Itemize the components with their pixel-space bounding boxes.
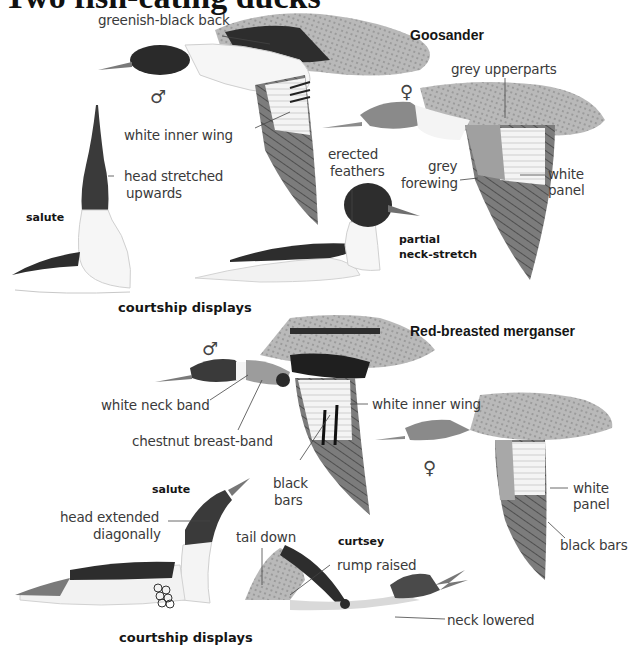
label-white-inner-wing: white inner wing [372,396,481,412]
label-black-bars-line2: bars [274,492,303,508]
display-label-salute: salute [152,483,190,497]
label-white-panel-line2: panel [548,182,584,198]
label-tail-down: tail down [236,529,296,545]
female-symbol-icon: ♀ [423,459,436,477]
display-label-partial-line2: neck-stretch [399,248,477,262]
label-white-panel-line1: white [548,166,584,182]
label-rump-raised: rump raised [337,557,416,573]
caption-courtship-displays-merganser: courtship displays [119,630,253,645]
label-white-panel-line1: white [573,480,609,496]
label-head-stretched-line2: upwards [126,185,182,201]
male-symbol-icon: ♂ [202,340,218,358]
label-black-bars-line1: black [273,475,308,491]
label-white-inner-wing: white inner wing [124,127,233,143]
caption-courtship-displays-goosander: courtship displays [118,300,252,315]
merganser-salute [15,478,250,608]
label-grey-forewing-line1: grey [428,158,457,174]
label-grey-forewing-line2: forewing [401,175,458,191]
label-erected-feathers-line2: feathers [330,163,384,179]
species-name-red-breasted-merganser: Red-breasted merganser [410,323,575,339]
display-label-partial-line1: partial [399,233,440,247]
label-chestnut-breast-band: chestnut breast-band [132,433,273,449]
label-grey-upperparts: grey upperparts [451,61,557,77]
display-label-curtsey: curtsey [338,535,384,549]
label-greenish-black-back: greenish-black back [98,12,230,28]
label-head-stretched-line1: head stretched [124,168,223,184]
label-black-bars-female: black bars [560,537,628,553]
label-erected-feathers-line1: erected [328,146,378,162]
label-white-panel-line2: panel [573,496,609,512]
male-symbol-icon: ♂ [150,88,166,106]
merganser-curtsey [245,545,468,610]
label-white-neck-band: white neck band [101,397,210,413]
label-head-extended-line1: head extended [60,509,159,525]
species-name-goosander: Goosander [410,27,484,43]
label-neck-lowered: neck lowered [447,612,534,628]
label-head-extended-line2: diagonally [93,526,161,542]
female-symbol-icon: ♀ [400,83,413,101]
goosander-salute [12,105,131,293]
display-label-salute: salute [26,211,64,225]
